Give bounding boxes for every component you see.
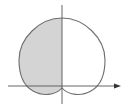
x-axis-arrow-icon [114,84,121,89]
shaded-left-region [19,18,62,94]
polar-curve-figure [0,0,128,112]
